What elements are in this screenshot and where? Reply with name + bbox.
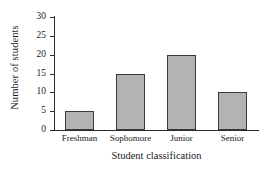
y-axis-tick-label: 5 [16, 106, 46, 116]
bar-chart-figure: Number of students 051015202530 Freshman… [0, 0, 265, 173]
bar [65, 111, 94, 130]
x-axis-tick-label: Junior [156, 133, 207, 143]
y-axis-tick-label: 0 [16, 125, 46, 135]
y-axis-tick-label: 25 [16, 31, 46, 41]
x-axis-tick-label: Freshman [54, 133, 105, 143]
x-axis-tick-label: Senior [207, 133, 258, 143]
y-axis-tick-label: 20 [16, 50, 46, 60]
y-axis-tick-label: 30 [16, 12, 46, 22]
x-axis-title: Student classification [54, 150, 259, 161]
bar [218, 92, 247, 130]
y-axis-tick-label: 15 [16, 69, 46, 79]
plot-area [54, 17, 258, 130]
x-axis-line [54, 130, 259, 131]
x-axis-tick-label: Sophomore [105, 133, 156, 143]
bar [167, 55, 196, 130]
bar [116, 74, 145, 131]
y-axis-tick-label: 10 [16, 87, 46, 97]
y-axis-tick [50, 130, 54, 131]
